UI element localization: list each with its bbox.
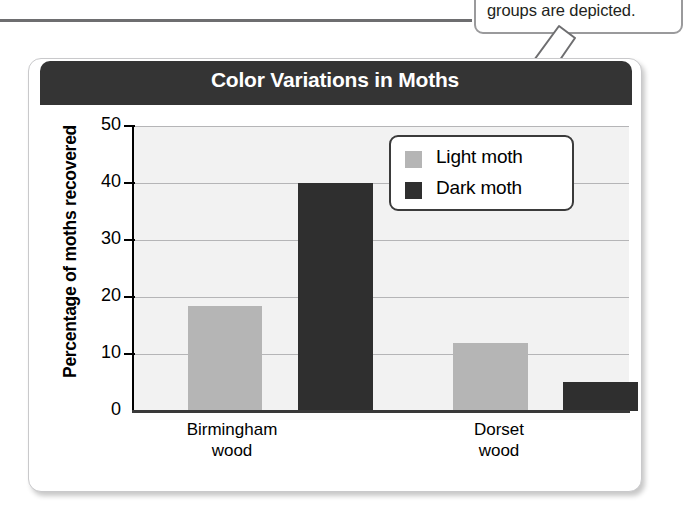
y-tick-label-0: 0: [81, 399, 121, 420]
bar-dark-birmingham: [298, 183, 373, 411]
x-tick-label-birmingham-line1: Birmingham: [137, 419, 327, 440]
x-axis-line: [132, 410, 630, 413]
y-tick-mark-10: [124, 353, 135, 355]
y-tick-mark-50: [124, 125, 135, 127]
gridline-30: [133, 240, 629, 241]
x-tick-label-dorset-line2: wood: [404, 440, 594, 461]
legend-label-dark-moth: Dark moth: [436, 177, 522, 199]
x-tick-label-birmingham-line2: wood: [137, 440, 327, 461]
x-tick-label-dorset: Dorset wood: [404, 419, 594, 461]
bar-light-birmingham: [188, 306, 262, 411]
y-tick-mark-30: [124, 239, 135, 241]
gridline-50: [133, 126, 629, 127]
callout-text: groups are depicted.: [487, 0, 677, 20]
y-tick-mark-40: [124, 182, 135, 184]
chart-card: Color Variations in Moths Percentage of …: [28, 58, 642, 492]
plot-wrapper: Percentage of moths recovered 0: [29, 59, 642, 492]
y-tick-mark-20: [124, 296, 135, 298]
y-tick-label-40: 40: [81, 171, 121, 192]
chart-legend: Light moth Dark moth: [389, 135, 574, 211]
bar-light-dorset: [453, 343, 528, 411]
legend-swatch-dark-moth-icon: [405, 182, 422, 199]
y-axis-title: Percentage of moths recovered: [60, 112, 81, 392]
y-tick-label-50: 50: [81, 114, 121, 135]
page-root: groups are depicted. Color Variations in…: [0, 0, 689, 520]
bar-dark-dorset: [563, 382, 638, 411]
legend-swatch-light-moth-icon: [405, 151, 422, 168]
gridline-20: [133, 297, 629, 298]
top-horizontal-rule: [0, 19, 472, 22]
y-axis-line: [132, 125, 134, 412]
y-tick-label-30: 30: [81, 228, 121, 249]
x-tick-label-birmingham: Birmingham wood: [137, 419, 327, 461]
x-tick-label-dorset-line1: Dorset: [404, 419, 594, 440]
y-tick-label-20: 20: [81, 285, 121, 306]
y-tick-label-10: 10: [81, 342, 121, 363]
legend-label-light-moth: Light moth: [436, 146, 523, 168]
